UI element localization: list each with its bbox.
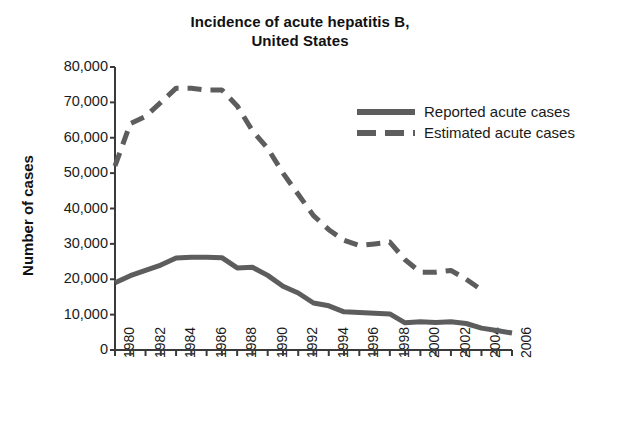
hepatitis-b-incidence-chart: Incidence of acute hepatitis B, United S… [0, 0, 620, 432]
legend-swatch-dashed-line-icon [357, 130, 415, 136]
chart-legend: Reported acute cases Estimated acute cas… [357, 101, 607, 143]
legend-item-estimated: Estimated acute cases [357, 122, 607, 143]
legend-item-reported: Reported acute cases [357, 101, 607, 122]
legend-swatch-solid-line-icon [357, 109, 415, 115]
legend-label-estimated: Estimated acute cases [424, 124, 575, 141]
plot-area [0, 0, 620, 432]
legend-label-reported: Reported acute cases [424, 103, 570, 120]
